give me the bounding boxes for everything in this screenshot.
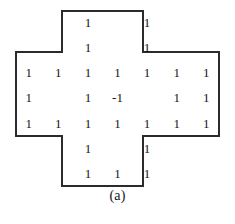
grid-cell-r7c5: 1 bbox=[132, 161, 162, 186]
grid-cell-r4c3: 1 bbox=[73, 85, 103, 110]
grid-cell-r4c1: 1 bbox=[14, 85, 44, 110]
grid-cell-r4c2 bbox=[44, 85, 74, 110]
grid-cell-r6c6 bbox=[162, 136, 192, 161]
grid-cell-r3c1: 1 bbox=[14, 60, 44, 85]
grid-cell-r5c1: 1 bbox=[14, 111, 44, 136]
grid-cell-r5c6: 1 bbox=[162, 111, 192, 136]
grid-cell-r3c6: 1 bbox=[162, 60, 192, 85]
grid-cell-r7c3: 1 bbox=[73, 161, 103, 186]
grid-cell-r2c7 bbox=[191, 35, 221, 60]
grid-cell-r4c4-center: -1 bbox=[103, 85, 133, 110]
grid-cell-r2c4 bbox=[103, 35, 133, 60]
grid-cell-r2c5: 1 bbox=[132, 35, 162, 60]
grid-cell-r1c2 bbox=[44, 10, 74, 35]
grid-cell-r4c7: 1 bbox=[191, 85, 221, 110]
grid-cell-r7c2 bbox=[44, 161, 74, 186]
grid-cell-r1c4 bbox=[103, 10, 133, 35]
grid-cell-r2c1 bbox=[14, 35, 44, 60]
grid-cell-r5c3: 1 bbox=[73, 111, 103, 136]
grid-cell-r3c3: 1 bbox=[73, 60, 103, 85]
grid-cell-r5c2: 1 bbox=[44, 111, 74, 136]
grid-cell-r6c2 bbox=[44, 136, 74, 161]
grid-cell-r3c2: 1 bbox=[44, 60, 74, 85]
grid-cell-r2c3: 1 bbox=[73, 35, 103, 60]
grid-cell-r7c7 bbox=[191, 161, 221, 186]
grid-cell-r6c4 bbox=[103, 136, 133, 161]
grid-cell-r1c5: 1 bbox=[132, 10, 162, 35]
grid-cell-r6c3: 1 bbox=[73, 136, 103, 161]
grid-cell-r7c1 bbox=[14, 161, 44, 186]
grid-cell-r1c7 bbox=[191, 10, 221, 35]
grid-cell-r5c5: 1 bbox=[132, 111, 162, 136]
grid-cell-r5c4: 1 bbox=[103, 111, 133, 136]
grid-cell-r6c7 bbox=[191, 136, 221, 161]
grid-cell-r5c7: 1 bbox=[191, 111, 221, 136]
grid-cell-r2c2 bbox=[44, 35, 74, 60]
figure-caption: (a) bbox=[0, 188, 235, 204]
grid-cell-r4c5 bbox=[132, 85, 162, 110]
grid-cell-r1c1 bbox=[14, 10, 44, 35]
grid-cell-r6c5: 1 bbox=[132, 136, 162, 161]
grid-cell-r3c4: 1 bbox=[103, 60, 133, 85]
grid-cell-r3c7: 1 bbox=[191, 60, 221, 85]
grid-cell-r3c5: 1 bbox=[132, 60, 162, 85]
grid-cell-r1c6 bbox=[162, 10, 192, 35]
figure-container: 1 1 1 1 1 1 1 1 1 1 1 1 1 -1 1 1 1 1 1 1… bbox=[0, 0, 235, 224]
value-grid: 1 1 1 1 1 1 1 1 1 1 1 1 1 -1 1 1 1 1 1 1… bbox=[14, 10, 221, 186]
grid-cell-r7c4: 1 bbox=[103, 161, 133, 186]
grid-cell-r7c6 bbox=[162, 161, 192, 186]
grid-cell-r6c1 bbox=[14, 136, 44, 161]
grid-cell-r1c3: 1 bbox=[73, 10, 103, 35]
grid-cell-r4c6: 1 bbox=[162, 85, 192, 110]
grid-cell-r2c6 bbox=[162, 35, 192, 60]
